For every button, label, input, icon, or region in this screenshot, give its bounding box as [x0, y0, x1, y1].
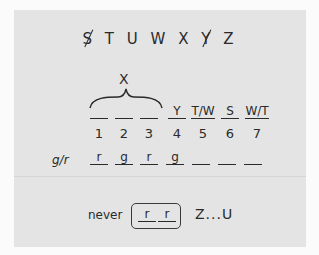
gr-row-label: g/r: [52, 153, 69, 167]
letter-y-crossed: Y: [201, 30, 213, 48]
never-label: never: [88, 208, 122, 222]
gr-slot-6: [216, 150, 238, 165]
letter-w: W: [151, 30, 169, 48]
position-5: 5: [192, 126, 214, 141]
position-6: 6: [219, 126, 241, 141]
gr-slot-4: g: [164, 150, 186, 165]
position-3: 3: [138, 126, 160, 141]
position-7: 7: [246, 126, 268, 141]
gr-slot-7: [242, 150, 264, 165]
letter-x: X: [178, 30, 191, 48]
gr-slot-2: g: [113, 150, 135, 165]
divider: [14, 176, 306, 177]
letter-z: Z: [223, 30, 236, 48]
group-label: X: [119, 71, 129, 87]
slot-2: [113, 104, 135, 119]
gr-slot-3: r: [138, 150, 160, 165]
slot-7: W/T: [243, 104, 271, 119]
letter-sequence: S T U W X Y Z: [0, 30, 319, 48]
position-2: 2: [113, 126, 135, 141]
never-slot-1: r: [136, 207, 158, 222]
gr-slot-1: r: [88, 150, 110, 165]
slot-5: T/W: [189, 104, 217, 119]
letter-t: T: [105, 30, 117, 48]
slot-3: [138, 104, 160, 119]
slot-4: Y: [166, 104, 188, 119]
position-1: 1: [88, 126, 110, 141]
letter-u: U: [127, 30, 141, 48]
never-tail-text: Z...U: [195, 206, 233, 222]
never-box: r r: [131, 203, 181, 229]
never-slot-2: r: [156, 207, 178, 222]
slot-6: S: [219, 104, 241, 119]
slot-1: [88, 104, 110, 119]
gr-slot-5: [190, 150, 212, 165]
letter-s-crossed: S: [83, 30, 96, 48]
position-4: 4: [166, 126, 188, 141]
